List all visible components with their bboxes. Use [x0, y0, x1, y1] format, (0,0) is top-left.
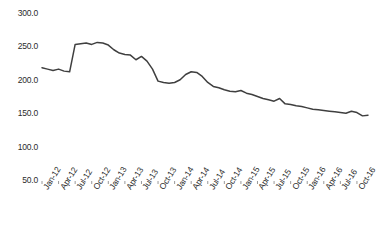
data-series-line — [42, 42, 368, 115]
axis-ticks — [42, 181, 357, 184]
